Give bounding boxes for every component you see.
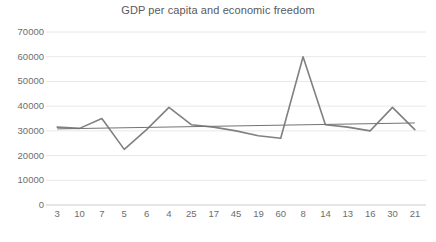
x-axis-tick-label: 4	[158, 208, 180, 226]
x-axis-tick-label: 45	[225, 208, 247, 226]
plot-area	[0, 0, 436, 242]
x-axis-tick-label: 10	[68, 208, 90, 226]
x-axis-tick-label: 6	[135, 208, 157, 226]
x-axis-tick-label: 3	[46, 208, 68, 226]
gridlines	[46, 32, 426, 205]
x-axis-tick-label: 60	[270, 208, 292, 226]
x-axis-tick-label: 21	[404, 208, 426, 226]
x-axis: 3107564251745196081413163021	[46, 208, 426, 226]
trendline	[57, 123, 415, 129]
x-axis-tick-label: 25	[180, 208, 202, 226]
x-axis-tick-label: 13	[337, 208, 359, 226]
x-axis-tick-label: 19	[247, 208, 269, 226]
chart-container: GDP per capita and economic freedom 7000…	[0, 0, 436, 242]
x-axis-tick-label: 30	[381, 208, 403, 226]
x-axis-tick-label: 7	[91, 208, 113, 226]
data-series-line	[57, 57, 415, 150]
x-axis-tick-label: 8	[292, 208, 314, 226]
x-axis-tick-label: 14	[314, 208, 336, 226]
x-axis-tick-label: 17	[203, 208, 225, 226]
x-axis-tick-label: 16	[359, 208, 381, 226]
x-axis-tick-label: 5	[113, 208, 135, 226]
